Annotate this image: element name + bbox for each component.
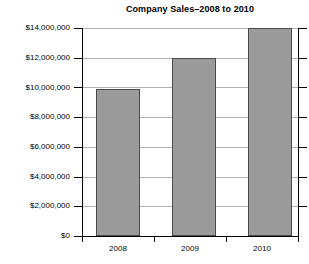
y-axis-tick-right-14000000 bbox=[299, 28, 307, 29]
y-axis-label-12000000: $12,000,000 bbox=[0, 54, 70, 62]
y-axis-tick-right-12000000 bbox=[299, 58, 307, 59]
y-axis-tick-right-4000000 bbox=[299, 177, 307, 178]
y-axis-tick-14000000 bbox=[74, 28, 82, 29]
x-axis-tick-start bbox=[82, 237, 83, 242]
chart-title: Company Sales–2008 to 2010 bbox=[82, 4, 298, 14]
bar-2009 bbox=[172, 58, 216, 236]
y-axis-tick-4000000 bbox=[74, 177, 82, 178]
x-axis-label-2009: 2009 bbox=[154, 244, 226, 253]
bar-2008 bbox=[96, 89, 140, 236]
y-axis-tick-2000000 bbox=[74, 206, 82, 207]
y-axis-label-0: $0 bbox=[0, 232, 70, 240]
x-axis-tick-1 bbox=[154, 237, 155, 242]
bar-2010 bbox=[248, 28, 292, 236]
x-axis-tick-end bbox=[298, 237, 299, 242]
y-axis-label-4000000: $4,000,000 bbox=[0, 173, 70, 181]
y-axis-tick-right-2000000 bbox=[299, 206, 307, 207]
y-axis-label-6000000: $6,000,000 bbox=[0, 143, 70, 151]
y-axis-label-14000000: $14,000,000 bbox=[0, 24, 70, 32]
y-axis-tick-6000000 bbox=[74, 147, 82, 148]
x-axis-label-2008: 2008 bbox=[82, 244, 154, 253]
plot-area bbox=[82, 28, 298, 236]
x-axis-line bbox=[82, 236, 299, 237]
y-axis-tick-12000000 bbox=[74, 58, 82, 59]
x-axis-tick-2 bbox=[226, 237, 227, 242]
x-axis-label-2010: 2010 bbox=[226, 244, 298, 253]
y-axis-label-8000000: $8,000,000 bbox=[0, 113, 70, 121]
y-axis-label-10000000: $10,000,000 bbox=[0, 84, 70, 92]
y-axis-tick-right-6000000 bbox=[299, 147, 307, 148]
y-axis-tick-10000000 bbox=[74, 87, 82, 88]
bar-chart: Company Sales–2008 to 2010 $14,000,000 $… bbox=[0, 0, 309, 264]
y-axis-tick-right-10000000 bbox=[299, 87, 307, 88]
y-axis-label-2000000: $2,000,000 bbox=[0, 202, 70, 210]
y-axis-tick-8000000 bbox=[74, 117, 82, 118]
y-axis-tick-0 bbox=[74, 236, 82, 237]
y-axis-line bbox=[82, 28, 83, 237]
right-axis-line bbox=[298, 28, 299, 237]
y-axis-tick-right-8000000 bbox=[299, 117, 307, 118]
